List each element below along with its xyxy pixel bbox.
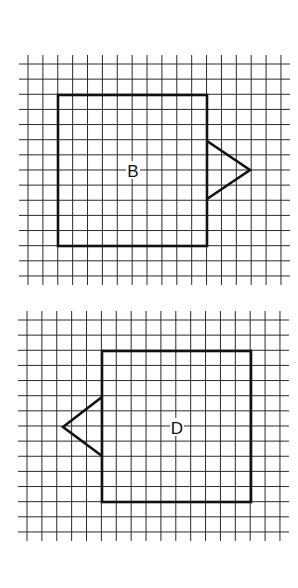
label-d: D [171, 419, 183, 438]
diagram-canvas: B D [0, 0, 298, 588]
grid-d [18, 311, 289, 541]
triangle-d-left [63, 397, 102, 456]
label-b: B [127, 162, 138, 181]
figure-b: B [19, 55, 290, 285]
figure-d: D [18, 311, 289, 541]
